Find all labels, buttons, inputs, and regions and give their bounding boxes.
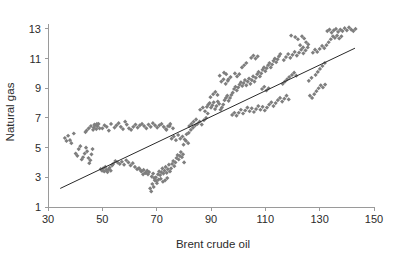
data-point: [200, 123, 204, 127]
data-point: [286, 52, 290, 56]
x-tick-label: 150: [365, 213, 383, 225]
data-point: [72, 131, 76, 135]
data-point: [208, 95, 212, 99]
data-point: [307, 79, 311, 83]
tick-marks-layer: [45, 29, 374, 211]
data-point: [323, 82, 327, 86]
data-point: [167, 163, 171, 167]
data-point: [263, 108, 267, 112]
data-point: [318, 47, 322, 51]
data-point: [233, 71, 237, 75]
y-tick-label: 11: [30, 53, 41, 65]
data-point: [312, 92, 316, 96]
x-tick-label: 90: [205, 213, 217, 225]
data-point: [224, 82, 228, 86]
data-point: [313, 73, 317, 77]
x-tick-label: 130: [310, 213, 328, 225]
x-tick-label: 70: [151, 213, 163, 225]
data-point: [280, 100, 284, 104]
y-tick-label: 5: [35, 142, 41, 154]
data-point: [316, 70, 320, 74]
tick-labels-layer: 13579111330507090110130150: [29, 23, 383, 225]
chart-canvas: 13579111330507090110130150 Brent crude o…: [0, 0, 398, 258]
data-point: [303, 48, 307, 52]
data-point: [182, 160, 186, 164]
data-point: [247, 109, 251, 113]
data-points-layer: [63, 25, 358, 193]
regression-trendline: [60, 48, 355, 188]
data-point: [309, 76, 313, 80]
data-point: [109, 122, 113, 126]
x-tick-label: 110: [257, 213, 275, 225]
data-point: [290, 53, 294, 57]
data-point: [245, 105, 249, 109]
data-point: [107, 128, 111, 132]
data-point: [274, 101, 278, 105]
data-point: [100, 126, 104, 130]
data-point: [327, 40, 331, 44]
x-axis-title: Brent crude oil: [176, 238, 250, 250]
y-tick-label: 7: [35, 112, 41, 124]
data-point: [256, 104, 260, 108]
data-point: [218, 74, 222, 78]
data-point: [89, 152, 93, 156]
data-point: [84, 146, 88, 150]
data-point: [287, 97, 291, 101]
data-point: [329, 37, 333, 41]
x-tick-label: 30: [42, 213, 54, 225]
data-point: [298, 43, 302, 47]
y-tick-label: 1: [35, 201, 41, 213]
data-point: [243, 108, 247, 112]
data-point: [234, 114, 238, 118]
y-tick-label: 9: [35, 82, 41, 94]
data-point: [288, 56, 292, 60]
axes-layer: [48, 24, 374, 207]
data-point: [289, 33, 293, 37]
data-point: [66, 134, 70, 138]
data-point: [293, 50, 297, 54]
scatter-chart: 13579111330507090110130150 Brent crude o…: [0, 0, 398, 258]
data-point: [122, 163, 126, 167]
data-point: [284, 55, 288, 59]
y-tick-label: 3: [35, 171, 41, 183]
data-point: [282, 97, 286, 101]
data-point: [284, 94, 288, 98]
data-point: [237, 111, 241, 115]
data-point: [239, 108, 243, 112]
data-point: [174, 138, 178, 142]
data-point: [181, 143, 185, 147]
data-point: [241, 111, 245, 115]
data-point: [314, 89, 318, 93]
data-point: [254, 107, 258, 111]
data-point: [265, 105, 269, 109]
y-axis-title: Natural gas: [4, 82, 16, 141]
data-point: [261, 105, 265, 109]
data-point: [252, 110, 256, 114]
trendline-layer: [60, 48, 355, 188]
data-point: [250, 106, 254, 110]
data-point: [271, 104, 275, 108]
data-point: [316, 86, 320, 90]
data-point: [171, 126, 175, 130]
data-point: [311, 51, 315, 55]
y-tick-label: 13: [29, 23, 41, 35]
data-point: [318, 67, 322, 71]
data-point: [215, 93, 219, 97]
data-point: [324, 43, 328, 47]
data-point: [295, 53, 299, 57]
data-point: [297, 51, 301, 55]
data-point: [301, 51, 305, 55]
data-point: [90, 147, 94, 151]
x-tick-label: 50: [96, 213, 108, 225]
data-point: [258, 108, 262, 112]
data-point: [282, 58, 286, 62]
